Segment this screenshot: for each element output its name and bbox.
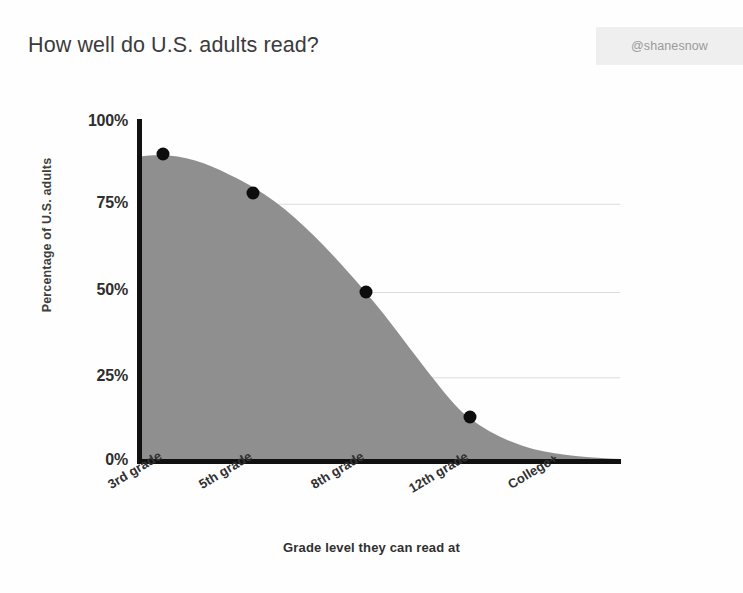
plot-area: Percentage of U.S. adults 100% 75% 50% 2… [0,0,743,593]
data-point-8th-grade [360,286,373,299]
chart-page: @shanesnow How well do U.S. adults read?… [0,0,743,593]
chart-canvas [0,0,743,593]
x-axis-title: Grade level they can read at [0,540,743,555]
data-point-12th-grade [464,411,477,424]
area-fill [139,155,620,461]
data-point-3rd-grade [157,148,170,161]
data-point-5th-grade [247,187,260,200]
